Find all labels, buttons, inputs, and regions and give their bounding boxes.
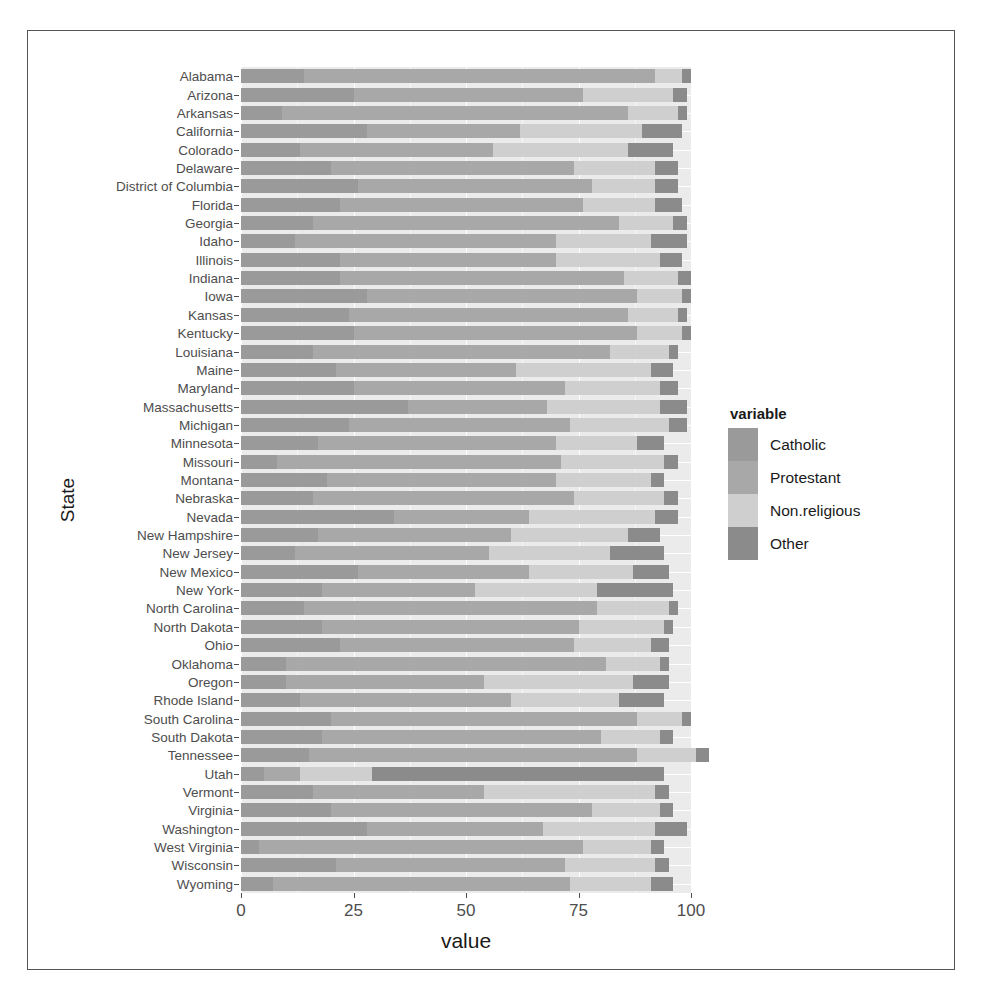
bar-segment-other[interactable] xyxy=(678,106,687,120)
bar-segment-non-religious[interactable] xyxy=(597,601,669,615)
bar-north-dakota[interactable] xyxy=(241,620,673,634)
bar-segment-non-religious[interactable] xyxy=(556,234,651,248)
bar-segment-non-religious[interactable] xyxy=(565,381,660,395)
bar-segment-non-religious[interactable] xyxy=(556,473,651,487)
bar-segment-catholic[interactable] xyxy=(241,345,313,359)
bar-segment-catholic[interactable] xyxy=(241,106,282,120)
bar-segment-catholic[interactable] xyxy=(241,271,340,285)
bar-segment-non-religious[interactable] xyxy=(520,124,642,138)
bar-segment-protestant[interactable] xyxy=(327,473,557,487)
bar-arkansas[interactable] xyxy=(241,106,687,120)
legend-item-catholic[interactable]: Catholic xyxy=(728,428,918,461)
bar-segment-catholic[interactable] xyxy=(241,179,358,193)
bar-montana[interactable] xyxy=(241,473,664,487)
bar-segment-other[interactable] xyxy=(372,767,665,781)
bar-segment-protestant[interactable] xyxy=(295,234,556,248)
bar-virginia[interactable] xyxy=(241,803,673,817)
bar-segment-non-religious[interactable] xyxy=(583,88,673,102)
bar-wyoming[interactable] xyxy=(241,877,673,891)
bar-segment-other[interactable] xyxy=(660,253,683,267)
bar-segment-protestant[interactable] xyxy=(313,345,610,359)
bar-segment-non-religious[interactable] xyxy=(579,620,665,634)
bar-segment-protestant[interactable] xyxy=(349,418,570,432)
bar-segment-protestant[interactable] xyxy=(358,565,529,579)
bar-segment-non-religious[interactable] xyxy=(484,785,655,799)
bar-segment-protestant[interactable] xyxy=(259,840,583,854)
bar-segment-other[interactable] xyxy=(664,491,678,505)
bar-segment-catholic[interactable] xyxy=(241,657,286,671)
bar-segment-catholic[interactable] xyxy=(241,326,354,340)
bar-segment-protestant[interactable] xyxy=(300,143,494,157)
bar-segment-protestant[interactable] xyxy=(313,216,619,230)
bar-segment-non-religious[interactable] xyxy=(637,712,682,726)
legend-item-other[interactable]: Other xyxy=(728,527,918,560)
bar-arizona[interactable] xyxy=(241,88,687,102)
bar-segment-catholic[interactable] xyxy=(241,730,322,744)
bar-segment-protestant[interactable] xyxy=(336,363,516,377)
bar-segment-catholic[interactable] xyxy=(241,400,408,414)
bar-delaware[interactable] xyxy=(241,161,678,175)
bar-segment-catholic[interactable] xyxy=(241,69,304,83)
bar-louisiana[interactable] xyxy=(241,345,678,359)
bar-segment-non-religious[interactable] xyxy=(574,161,655,175)
bar-segment-other[interactable] xyxy=(655,858,669,872)
bar-segment-catholic[interactable] xyxy=(241,858,336,872)
bar-segment-non-religious[interactable] xyxy=(565,858,655,872)
bar-segment-non-religious[interactable] xyxy=(619,216,673,230)
bar-segment-non-religious[interactable] xyxy=(570,418,669,432)
bar-segment-protestant[interactable] xyxy=(354,88,584,102)
bar-segment-catholic[interactable] xyxy=(241,822,367,836)
bar-segment-non-religious[interactable] xyxy=(628,106,678,120)
bar-segment-other[interactable] xyxy=(651,363,674,377)
bar-segment-other[interactable] xyxy=(660,657,669,671)
bar-segment-other[interactable] xyxy=(673,216,687,230)
bar-segment-other[interactable] xyxy=(655,785,669,799)
bar-segment-non-religious[interactable] xyxy=(628,308,678,322)
bar-segment-non-religious[interactable] xyxy=(493,143,628,157)
bar-segment-protestant[interactable] xyxy=(367,289,637,303)
bar-segment-protestant[interactable] xyxy=(318,528,512,542)
bar-segment-non-religious[interactable] xyxy=(484,675,633,689)
bar-segment-non-religious[interactable] xyxy=(637,289,682,303)
bar-segment-protestant[interactable] xyxy=(331,712,637,726)
bar-colorado[interactable] xyxy=(241,143,673,157)
bar-segment-non-religious[interactable] xyxy=(489,546,611,560)
bar-segment-other[interactable] xyxy=(678,271,692,285)
bar-segment-other[interactable] xyxy=(696,748,710,762)
bar-new-mexico[interactable] xyxy=(241,565,669,579)
bar-segment-catholic[interactable] xyxy=(241,546,295,560)
bar-wisconsin[interactable] xyxy=(241,858,669,872)
bar-district-of-columbia[interactable] xyxy=(241,179,678,193)
bar-segment-catholic[interactable] xyxy=(241,638,340,652)
bar-segment-protestant[interactable] xyxy=(367,822,543,836)
bar-maine[interactable] xyxy=(241,363,673,377)
bar-segment-other[interactable] xyxy=(664,620,673,634)
bar-segment-other[interactable] xyxy=(669,418,687,432)
bar-nevada[interactable] xyxy=(241,510,678,524)
bar-segment-other[interactable] xyxy=(655,161,678,175)
bar-segment-other[interactable] xyxy=(642,124,683,138)
bar-segment-protestant[interactable] xyxy=(322,583,475,597)
bar-segment-other[interactable] xyxy=(628,528,660,542)
bar-segment-protestant[interactable] xyxy=(349,308,628,322)
bar-illinois[interactable] xyxy=(241,253,682,267)
bar-segment-catholic[interactable] xyxy=(241,712,331,726)
bar-segment-non-religious[interactable] xyxy=(583,198,655,212)
bar-segment-other[interactable] xyxy=(651,638,669,652)
bar-segment-catholic[interactable] xyxy=(241,436,318,450)
bar-iowa[interactable] xyxy=(241,289,691,303)
bar-segment-catholic[interactable] xyxy=(241,510,394,524)
bar-segment-non-religious[interactable] xyxy=(583,840,651,854)
bar-west-virginia[interactable] xyxy=(241,840,664,854)
bar-idaho[interactable] xyxy=(241,234,687,248)
bar-segment-other[interactable] xyxy=(664,455,678,469)
bar-segment-other[interactable] xyxy=(619,693,664,707)
bar-segment-non-religious[interactable] xyxy=(610,345,669,359)
bar-nebraska[interactable] xyxy=(241,491,678,505)
bar-segment-other[interactable] xyxy=(655,510,678,524)
bar-segment-catholic[interactable] xyxy=(241,124,367,138)
bar-segment-non-religious[interactable] xyxy=(511,528,628,542)
bar-segment-other[interactable] xyxy=(669,345,678,359)
bar-segment-protestant[interactable] xyxy=(340,638,574,652)
bar-south-carolina[interactable] xyxy=(241,712,691,726)
